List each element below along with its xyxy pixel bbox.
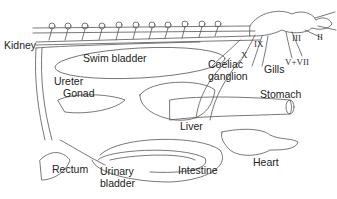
label-urinary-bladder-2: bladder — [100, 178, 135, 189]
label-kidney: Kidney — [4, 40, 36, 51]
heart-outline — [221, 129, 298, 155]
label-nerve-ii: II — [317, 32, 323, 42]
label-heart: Heart — [253, 157, 279, 168]
label-intestine: Intestine — [178, 165, 218, 176]
stomach-outline — [170, 97, 292, 120]
label-gonad: Gonad — [63, 88, 95, 99]
label-nerve-ix: IX — [254, 39, 264, 49]
label-urinary-bladder-1: Urinary — [100, 166, 134, 177]
liver-outline — [140, 82, 215, 120]
label-stomach: Stomach — [260, 89, 301, 100]
label-coeliac-ganglion-1: Coeliac — [208, 59, 243, 70]
label-swim-bladder: Swim bladder — [83, 53, 147, 64]
label-rectum: Rectum — [52, 164, 88, 175]
label-coeliac-ganglion-2: ganglion — [208, 71, 248, 82]
label-nerve-iii: III — [292, 33, 301, 43]
label-liver: Liver — [180, 121, 203, 132]
label-ureter: Ureter — [54, 76, 83, 87]
label-nerve-x: X — [241, 50, 248, 60]
label-nerve-v-vii: V+VII — [285, 57, 309, 67]
fish-autonomic-diagram: Kidney Swim bladder Ureter Gonad Coeliac… — [0, 0, 337, 199]
label-gills: Gills — [264, 64, 284, 75]
